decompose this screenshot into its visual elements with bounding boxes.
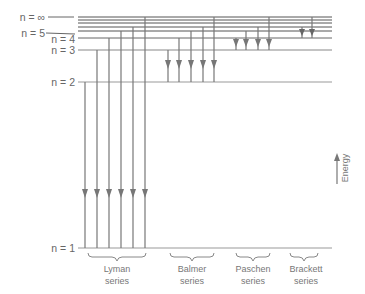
- energy-level-diagram: n = ∞ n = 5 n = 4 n = 3 n = 2 n = 1: [0, 0, 365, 294]
- arrowhead-icon: [165, 60, 171, 69]
- series-braces: [88, 253, 318, 261]
- arrowhead-icon: [266, 39, 272, 47]
- lyman-transitions: [82, 17, 148, 248]
- paschen-transitions: [233, 17, 272, 50]
- arrowhead-icon: [188, 60, 194, 69]
- arrowhead-icon: [142, 189, 148, 198]
- arrowhead-icon: [130, 189, 136, 198]
- balmer-brace: [170, 253, 214, 261]
- brackett-series-sublabel: series: [294, 276, 319, 286]
- arrowhead-icon: [82, 189, 88, 198]
- paschen-series-label: Paschen: [235, 264, 270, 274]
- arrowhead-icon: [200, 60, 206, 69]
- balmer-series-label: Balmer: [178, 264, 207, 274]
- lyman-series-label: Lyman: [104, 264, 131, 274]
- level-label-n3: n = 3: [51, 44, 75, 56]
- energy-axis-label: Energy: [340, 153, 350, 182]
- lyman-brace: [88, 253, 146, 261]
- arrowhead-icon: [118, 189, 124, 198]
- arrowhead-icon: [176, 60, 182, 69]
- arrowhead-icon: [255, 39, 261, 47]
- paschen-brace: [236, 253, 270, 261]
- brackett-series-label: Brackett: [289, 264, 323, 274]
- energy-levels: [78, 17, 332, 248]
- level-label-n-infinity: n = ∞: [20, 11, 45, 23]
- arrowhead-icon: [309, 29, 315, 36]
- lyman-series-sublabel: series: [105, 276, 130, 286]
- level-label-n5: n = 5: [21, 27, 45, 39]
- arrowhead-icon: [211, 60, 217, 69]
- level-label-n2: n = 2: [51, 76, 75, 88]
- arrowhead-icon: [94, 189, 100, 198]
- arrowhead-icon: [243, 39, 249, 47]
- level-label-n1: n = 1: [51, 242, 75, 254]
- paschen-series-sublabel: series: [241, 276, 266, 286]
- arrowhead-icon: [106, 189, 112, 198]
- brackett-brace: [290, 253, 318, 261]
- arrowhead-icon: [233, 39, 239, 47]
- balmer-series-sublabel: series: [180, 276, 205, 286]
- arrowhead-icon: [299, 29, 305, 36]
- energy-axis: Energy: [334, 153, 350, 184]
